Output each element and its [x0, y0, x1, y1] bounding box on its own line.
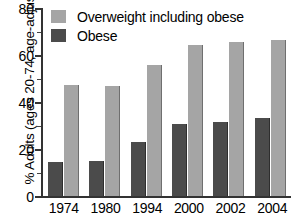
y-tick-label: 60 — [18, 49, 34, 63]
clipped-title — [0, 0, 291, 2]
y-tick-major — [35, 55, 41, 57]
x-tick-label: 2000 — [168, 200, 210, 216]
legend-item-obese: Obese — [51, 26, 244, 45]
bar-overweight — [271, 40, 286, 196]
bar-overweight — [64, 85, 79, 196]
x-axis-line — [41, 196, 291, 198]
y-tick-label: 20 — [18, 143, 34, 157]
legend-item-overweight: Overweight including obese — [51, 7, 244, 26]
bar-obese — [213, 122, 228, 196]
y-tick-label: 80 — [18, 2, 34, 16]
x-tick-label: 1994 — [126, 200, 168, 216]
bar-obese — [89, 161, 104, 196]
y-tick-major — [35, 196, 41, 198]
legend-label-obese: Obese — [77, 29, 117, 43]
bar-obese — [48, 162, 63, 196]
x-tick-label: 2004 — [251, 200, 291, 216]
bar-overweight — [229, 42, 244, 196]
y-tick-major — [35, 149, 41, 151]
legend: Overweight including obese Obese — [51, 7, 244, 45]
bar-obese — [255, 118, 270, 196]
bar-group — [250, 8, 291, 196]
y-tick-major — [35, 8, 41, 10]
bar-overweight — [105, 86, 120, 196]
x-tick-label: 2002 — [210, 200, 252, 216]
y-tick-minor — [37, 126, 41, 127]
y-tick-minor — [37, 79, 41, 80]
bar-obese — [172, 124, 187, 196]
bar-obese — [131, 142, 146, 196]
bar-overweight — [188, 45, 203, 196]
legend-swatch-overweight-icon — [51, 10, 66, 23]
bar-chart: % Adults (ages 20-74, age-adjusted) 0204… — [0, 0, 291, 223]
y-tick-major — [35, 102, 41, 104]
legend-label-overweight: Overweight including obese — [77, 10, 244, 24]
x-tick-label: 1980 — [85, 200, 127, 216]
x-axis-tick-labels: 197419801994200020022004 — [43, 200, 291, 216]
y-tick-label: 0 — [26, 190, 34, 204]
legend-swatch-obese-icon — [51, 29, 66, 42]
y-tick-minor — [37, 32, 41, 33]
y-tick-minor — [37, 173, 41, 174]
y-tick-label: 40 — [18, 96, 34, 110]
x-tick-label: 1974 — [43, 200, 85, 216]
bar-overweight — [147, 65, 162, 196]
